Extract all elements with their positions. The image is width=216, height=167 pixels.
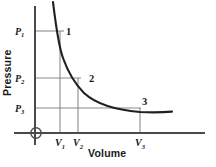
x-tick-label-v2: V2 <box>73 137 84 150</box>
x-axis-title: Volume <box>88 147 126 159</box>
point-label-1: 1 <box>66 26 71 37</box>
pv-diagram: P1 P2 P3 V1 V2 V3 1 2 3 Pressure Volume <box>0 0 216 167</box>
x-tick-label-v3: V3 <box>135 137 146 150</box>
y-tick-label-p3: P3 <box>15 103 25 116</box>
isotherm-curve <box>53 2 172 112</box>
x-tick-label-v1: V1 <box>55 137 65 150</box>
pv-chart-svg: P1 P2 P3 V1 V2 V3 1 2 3 Pressure Volume <box>0 0 216 167</box>
point-label-2: 2 <box>89 73 94 84</box>
y-tick-label-p2: P2 <box>15 73 25 86</box>
y-axis-title: Pressure <box>1 49 13 96</box>
point-label-3: 3 <box>142 96 147 107</box>
y-tick-label-p1: P1 <box>15 26 24 39</box>
